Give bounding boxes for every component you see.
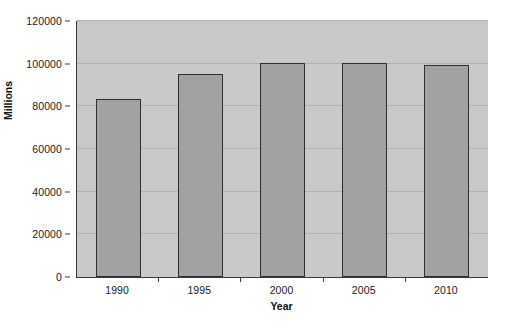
plot-area (76, 21, 488, 278)
x-tick-label-2005: 2005 (323, 284, 405, 296)
y-tick-mark-60000 (65, 149, 70, 150)
y-tick-mark-120000 (65, 21, 70, 22)
y-tick-label-0: 0 (56, 271, 62, 283)
bar-slot-1990 (77, 21, 159, 277)
x-tick-label-2000: 2000 (240, 284, 322, 296)
y-axis-tick-labels: 020000400006000080000100000120000 (0, 21, 70, 277)
y-tick-mark-20000 (65, 234, 70, 235)
bar-2010[interactable] (424, 65, 469, 277)
x-tick-mark-2 (240, 278, 241, 282)
x-tick-label-1990: 1990 (76, 284, 158, 296)
y-tick-label-120000: 120000 (26, 15, 62, 27)
x-tick-label-2010: 2010 (405, 284, 487, 296)
y-tick-label-20000: 20000 (32, 228, 62, 240)
bar-2000[interactable] (260, 63, 305, 277)
y-tick-label-60000: 60000 (32, 143, 62, 155)
y-tick-mark-0 (65, 277, 70, 278)
y-tick-mark-80000 (65, 106, 70, 107)
x-tick-mark-1 (158, 278, 159, 282)
bar-2005[interactable] (342, 63, 387, 277)
y-tick-label-100000: 100000 (26, 58, 62, 70)
bar-1990[interactable] (96, 99, 141, 277)
bar-slot-2010 (406, 21, 488, 277)
bar-1995[interactable] (178, 74, 223, 277)
x-tick-label-1995: 1995 (158, 284, 240, 296)
x-axis-tick-marks (76, 278, 487, 283)
x-tick-mark-4 (405, 278, 406, 282)
y-tick-mark-100000 (65, 63, 70, 64)
bar-slot-1995 (159, 21, 241, 277)
bars-layer (77, 21, 488, 277)
x-tick-mark-3 (323, 278, 324, 282)
y-tick-label-80000: 80000 (32, 100, 62, 112)
bar-slot-2000 (241, 21, 323, 277)
y-tick-label-40000: 40000 (32, 186, 62, 198)
bar-chart-figure: Millions 0200004000060000800001000001200… (0, 0, 505, 324)
y-tick-mark-40000 (65, 191, 70, 192)
x-axis-title: Year (76, 300, 487, 312)
bar-slot-2005 (324, 21, 406, 277)
x-axis-tick-labels: 19901995200020052010 (76, 284, 487, 296)
